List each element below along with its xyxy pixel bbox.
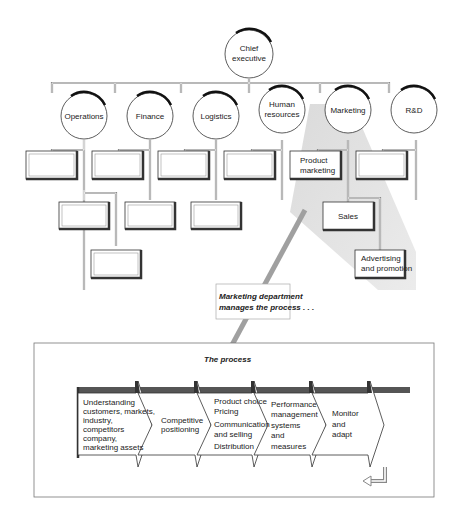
node-label: Chief [240,44,259,53]
node-label: Operations [64,112,103,121]
svg-text:customers, markets,: customers, markets, [83,407,155,416]
svg-text:and selling: and selling [214,430,252,439]
unit-box[interactable] [125,202,175,229]
svg-text:measures: measures [271,442,306,451]
node-chief-executive[interactable]: Chief executive [225,29,273,78]
svg-text:positioning: positioning [161,425,199,434]
unit-box[interactable] [191,202,241,229]
unit-sales[interactable]: Sales [323,202,374,230]
svg-text:competitors: competitors [83,425,124,434]
svg-text:Product choice: Product choice [214,397,267,406]
svg-text:Understanding: Understanding [83,398,135,407]
node-finance[interactable]: Finance [127,92,173,139]
process-top-band [78,387,410,393]
unit-box[interactable] [26,151,77,179]
unit-box[interactable] [91,250,141,278]
svg-text:Pricing: Pricing [214,407,238,416]
node-label: Finance [136,112,165,121]
svg-text:Monitor: Monitor [332,409,359,418]
step-2-text: Competitive positioning [161,416,204,434]
node-label: R&D [406,106,423,115]
node-operations[interactable]: Operations [61,92,107,139]
unit-label: marketing [300,166,335,175]
unit-advertising-promotion[interactable]: Advertising and promotion [355,250,412,278]
callout-box: Marketing department manages the process… [216,284,314,319]
svg-text:and: and [271,431,284,440]
unit-box[interactable] [356,151,407,179]
unit-product-marketing[interactable]: Product marketing [290,151,341,179]
svg-text:management: management [271,410,318,419]
svg-text:company,: company, [83,434,117,443]
unit-label: Sales [338,212,358,221]
process-pointer-line [232,210,305,345]
unit-box[interactable] [224,151,275,179]
node-label: resources [264,110,299,119]
process-title: The process [204,355,252,364]
unit-box[interactable] [158,151,209,179]
node-marketing[interactable]: Marketing [325,86,371,133]
unit-label: Advertising [361,254,401,263]
unit-label: and promotion [361,264,412,273]
svg-text:Distribution: Distribution [214,442,254,451]
svg-text:adapt: adapt [332,430,353,439]
svg-text:Communication: Communication [214,420,270,429]
svg-text:Performance: Performance [271,400,317,409]
svg-text:Competitive: Competitive [161,416,204,425]
org-diagram: Chief executive Operations Finance Logis… [0,0,459,512]
node-label: executive [232,54,266,63]
node-logistics[interactable]: Logistics [193,92,239,139]
svg-text:marketing assets: marketing assets [83,443,143,452]
process-panel: The process Understanding customers, mar… [34,343,434,497]
unit-box[interactable] [92,151,143,179]
callout-text: manages the process . . . [219,303,314,312]
node-label: Human [269,100,295,109]
svg-text:systems: systems [271,421,300,430]
node-rnd[interactable]: R&D [391,86,437,133]
callout-text: Marketing department [219,292,303,301]
unit-label: Product [300,156,328,165]
node-label: Logistics [200,112,231,121]
node-label: Marketing [330,106,365,115]
svg-text:and: and [332,420,345,429]
svg-text:industry,: industry, [83,416,113,425]
node-human-resources[interactable]: Human resources [259,86,305,133]
unit-box[interactable] [59,202,109,229]
